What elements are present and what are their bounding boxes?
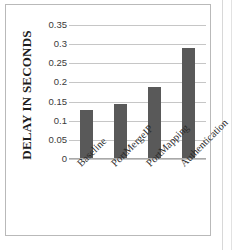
y-axis-title-text: DELAY IN SECONDS	[19, 30, 35, 159]
bar	[182, 48, 195, 159]
y-axis-tick-label: 0.05	[36, 135, 67, 145]
y-axis-tick-label: 0.25	[36, 58, 67, 68]
y-axis-tick-label: 0.3	[36, 39, 67, 49]
y-axis-tick-label: 0.15	[36, 97, 67, 107]
y-axis-title: DELAY IN SECONDS	[16, 19, 38, 171]
y-axis-tick-label: 0	[36, 154, 67, 164]
y-axis-tick-label: 0.2	[36, 77, 67, 87]
y-axis-tick-label: 0.1	[36, 116, 67, 126]
x-axis-tick-labels: BaselinePortMergeIPPortMappingAuthentica…	[69, 161, 219, 239]
page-edge-line-secondary	[231, 0, 232, 250]
y-axis-tick-labels: 00.050.10.150.20.250.30.35	[36, 19, 67, 159]
y-axis-tick-label: 0.35	[36, 20, 67, 30]
chart-container: DELAY IN SECONDS 00.050.10.150.20.250.30…	[5, 4, 211, 236]
